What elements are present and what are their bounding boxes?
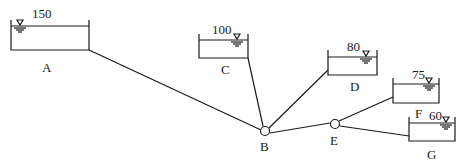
label-f: F: [415, 106, 422, 121]
label-d: D: [350, 79, 359, 94]
label-b: B: [260, 139, 269, 154]
level-f: 75: [412, 67, 425, 82]
label-g: G: [427, 147, 436, 162]
pipe-b-e: [270, 123, 330, 133]
pipe-network-diagram: 150 100 80 75 60 A C D F G B E: [0, 0, 469, 166]
pipe-d-b: [269, 70, 328, 128]
level-d: 80: [347, 39, 360, 54]
pipe-e-f: [339, 97, 393, 121]
label-e: E: [330, 133, 338, 148]
pipe-c-b: [248, 58, 263, 126]
label-c: C: [221, 62, 230, 77]
level-g: 60: [429, 108, 442, 123]
pipe-a-b: [89, 50, 261, 130]
level-a: 150: [32, 6, 52, 21]
junction-e: [331, 120, 340, 129]
label-a: A: [42, 60, 52, 75]
reservoir-a: [11, 20, 89, 50]
reservoir-c: [199, 34, 248, 58]
pipe-e-g: [340, 126, 409, 136]
junction-b: [261, 127, 270, 136]
level-c: 100: [212, 22, 232, 37]
